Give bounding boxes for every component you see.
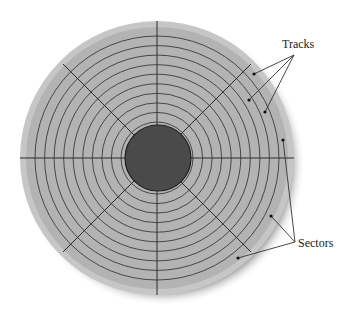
spindle-hub — [125, 125, 191, 191]
tracks-label: Tracks — [282, 38, 314, 50]
callout-dot — [269, 214, 272, 217]
callout-dot — [281, 138, 284, 141]
disk-diagram: Tracks Sectors — [0, 0, 356, 318]
callout-dot — [263, 110, 266, 113]
sectors-label: Sectors — [298, 237, 333, 249]
callout-dot — [252, 72, 255, 75]
callout-dot — [236, 256, 239, 259]
callout-dot — [247, 98, 250, 101]
